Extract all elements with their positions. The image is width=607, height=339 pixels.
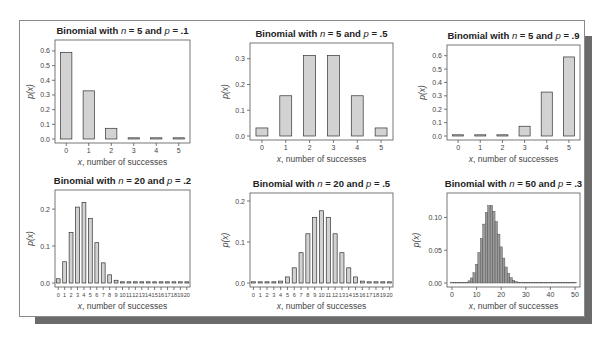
y-tick-label: 0.0 <box>235 280 245 287</box>
bar <box>451 282 453 283</box>
y-tick-label: 0.0 <box>235 133 245 140</box>
bar <box>313 217 317 283</box>
x-tick-label: 4 <box>355 144 359 151</box>
chart-binomial-n5-p01: Binomial with n = 5 and p = .10.00.10.20… <box>25 25 190 167</box>
bar <box>367 282 371 283</box>
x-tick-label: 4 <box>279 292 282 298</box>
x-axis-label: x, number of successes <box>276 301 366 311</box>
bar <box>299 253 303 283</box>
y-tick-label: 0.2 <box>432 106 442 113</box>
x-tick-label: 4 <box>154 147 158 154</box>
x-tick-label: 1 <box>63 292 66 298</box>
bar <box>178 282 182 283</box>
bar <box>547 282 549 283</box>
x-tick-label: 15 <box>352 292 358 298</box>
y-tick-label: 0.1 <box>40 243 50 250</box>
bar <box>461 282 463 283</box>
y-axis-label: p(x) <box>25 84 35 100</box>
bar <box>280 96 292 136</box>
bar <box>326 217 330 283</box>
y-tick-label: 0.0 <box>40 136 50 143</box>
bar <box>121 282 125 283</box>
x-tick-label: 20 <box>184 292 190 298</box>
y-tick-label: 0.1 <box>432 119 442 126</box>
y-tick-label: 0.3 <box>40 91 50 98</box>
bar <box>542 282 544 283</box>
bar <box>512 280 514 283</box>
plot-area <box>250 43 393 140</box>
bar <box>292 268 296 283</box>
bar <box>566 282 568 283</box>
x-tick-label: 17 <box>366 292 372 298</box>
y-tick-label: 0.2 <box>40 106 50 113</box>
chart-title: Binomial with n = 20 and p = .5 <box>253 178 391 189</box>
bar <box>95 243 99 283</box>
x-tick-label: 12 <box>132 292 138 298</box>
x-tick-label: 3 <box>272 292 275 298</box>
x-tick-label: 9 <box>115 292 118 298</box>
bar <box>375 128 387 136</box>
bar <box>381 282 385 283</box>
x-tick-label: 14 <box>145 292 151 298</box>
chart-title: Binomial with n = 5 and p = .5 <box>255 28 388 39</box>
bar <box>340 253 344 283</box>
bar <box>519 126 530 136</box>
bar <box>458 282 460 283</box>
bar <box>463 282 465 283</box>
x-tick-label: 15 <box>152 292 158 298</box>
chart-binomial-n50-p03: Binomial with n = 50 and p = .30.000.050… <box>411 178 582 311</box>
bar <box>493 211 495 283</box>
bar <box>505 267 507 283</box>
x-tick-label: 3 <box>76 292 79 298</box>
bar <box>82 202 86 283</box>
x-tick-label: 2 <box>109 147 113 154</box>
x-tick-label: 3 <box>523 144 527 151</box>
x-tick-label: 0 <box>450 291 454 298</box>
bar <box>569 282 571 283</box>
bar <box>256 128 268 136</box>
chart-grid: Binomial with n = 5 and p = .10.00.10.20… <box>0 0 607 339</box>
y-tick-label: 0.00 <box>428 280 442 287</box>
bar <box>525 282 527 283</box>
bar <box>539 282 541 283</box>
x-axis-label: x, number of successes <box>468 301 558 311</box>
bar <box>185 282 189 283</box>
x-tick-label: 0 <box>456 144 460 151</box>
bar <box>559 282 561 283</box>
bar <box>140 282 144 283</box>
bar <box>466 282 468 283</box>
bar <box>456 282 458 283</box>
y-axis-label: p(x) <box>220 233 230 249</box>
bar <box>88 218 92 283</box>
bar <box>563 57 574 136</box>
x-tick-label: 9 <box>313 292 316 298</box>
x-tick-label: 5 <box>89 292 92 298</box>
bar <box>478 252 480 283</box>
x-tick-label: 10 <box>318 292 324 298</box>
y-tick-label: 0.0 <box>432 133 442 140</box>
x-tick-label: 0 <box>260 144 264 151</box>
bar <box>258 282 262 283</box>
bar <box>101 263 105 283</box>
bar <box>83 91 94 139</box>
chart-title: Binomial with n = 5 and p = .9 <box>447 30 579 41</box>
x-tick-label: 19 <box>380 292 386 298</box>
bar <box>172 282 176 283</box>
x-tick-label: 2 <box>265 292 268 298</box>
bar <box>114 280 118 283</box>
y-tick-label: 0.6 <box>432 52 442 59</box>
bar <box>483 224 485 283</box>
bar <box>522 282 524 283</box>
bar <box>498 234 500 283</box>
y-axis-label: p(x) <box>411 233 421 249</box>
bar <box>541 92 552 136</box>
x-tick-label: 0 <box>64 147 68 154</box>
bar <box>475 264 477 283</box>
bar <box>520 282 522 283</box>
y-tick-label: 0.1 <box>235 239 245 246</box>
y-tick-label: 0.3 <box>235 55 245 62</box>
bar <box>495 222 497 283</box>
x-tick-label: 17 <box>164 292 170 298</box>
bar <box>272 282 276 283</box>
x-tick-label: 1 <box>478 144 482 151</box>
